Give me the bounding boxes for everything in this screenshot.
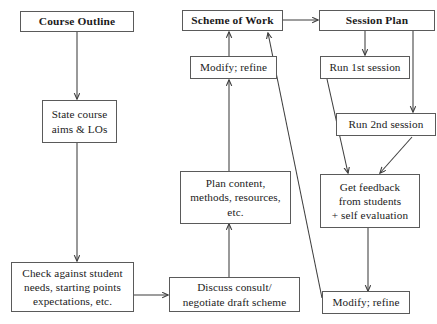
node-session-plan[interactable]: Session Plan <box>319 10 435 31</box>
node-check-against-label: Check against student needs, starting po… <box>22 266 122 309</box>
node-run-2nd-session-label: Run 2nd session <box>349 117 424 131</box>
node-modify-refine-bottom-label: Modify; refine <box>333 295 400 309</box>
node-modify-refine-bottom[interactable]: Modify; refine <box>322 291 410 314</box>
node-state-course-aims[interactable]: State course aims & LOs <box>42 100 117 143</box>
node-modify-refine-top[interactable]: Modify; refine <box>190 56 277 79</box>
node-state-course-aims-label: State course aims & LOs <box>52 107 108 136</box>
node-get-feedback[interactable]: Get feedback from students + self evalua… <box>320 174 420 228</box>
node-get-feedback-label: Get feedback from students + self evalua… <box>332 180 408 223</box>
node-plan-content-label: Plan content, methods, resources, etc. <box>190 176 280 219</box>
node-check-against[interactable]: Check against student needs, starting po… <box>11 262 134 312</box>
node-run-2nd-session[interactable]: Run 2nd session <box>336 113 436 136</box>
node-plan-content[interactable]: Plan content, methods, resources, etc. <box>180 171 291 224</box>
node-course-outline-label: Course Outline <box>39 14 115 29</box>
node-discuss-consult[interactable]: Discuss consult/ negotiate draft scheme <box>169 277 300 312</box>
node-run-1st-session-label: Run 1st session <box>329 60 400 74</box>
node-scheme-of-work-label: Scheme of Work <box>191 13 273 28</box>
node-course-outline[interactable]: Course Outline <box>20 11 134 32</box>
node-session-plan-label: Session Plan <box>346 13 408 28</box>
node-run-1st-session[interactable]: Run 1st session <box>320 56 410 79</box>
node-discuss-consult-label: Discuss consult/ negotiate draft scheme <box>183 280 286 309</box>
node-modify-refine-top-label: Modify; refine <box>200 60 267 74</box>
node-scheme-of-work[interactable]: Scheme of Work <box>182 10 283 31</box>
flowchart-canvas: Course Outline Scheme of Work Session Pl… <box>0 0 437 324</box>
edge-run-2nd-session-to-get-feedback <box>380 137 412 173</box>
